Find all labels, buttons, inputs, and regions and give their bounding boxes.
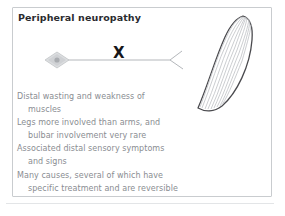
- figure-feature-list: Distal wasting and weakness of muscles L…: [17, 90, 232, 195]
- list-item: Many causes, several of which have: [17, 169, 232, 182]
- list-item: Legs more involved than arms, and: [17, 116, 232, 129]
- bottom-divider: [6, 203, 274, 204]
- list-item: Associated distal sensory symptoms: [17, 142, 232, 155]
- list-item: specific treatment and are reversible: [17, 182, 232, 195]
- lesion-x-mark: X: [113, 46, 125, 61]
- list-item: and signs: [17, 155, 232, 168]
- list-item: muscles: [17, 103, 232, 116]
- figure-title: Peripheral neuropathy: [18, 12, 141, 23]
- list-item: bulbar involvement very rare: [17, 129, 232, 142]
- list-item: Distal wasting and weakness of: [17, 90, 232, 103]
- peripheral-neuropathy-figure: Peripheral neuropathy: [0, 0, 285, 216]
